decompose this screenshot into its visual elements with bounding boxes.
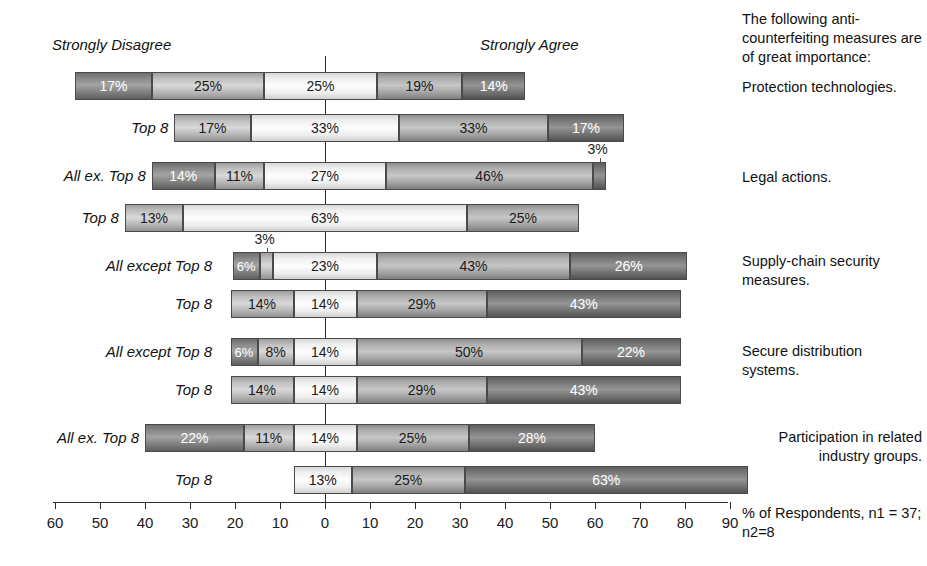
axis-tick [550,502,551,509]
bar-segment-value: 14% [248,296,276,312]
axis-tick-label: 40 [125,514,165,531]
bar-segment: 17% [75,72,152,100]
row-label: All ex. Top 8 [64,167,146,184]
bar-segment: 43% [487,376,681,404]
axis-tick-label: 10 [350,514,390,531]
category-label: Protection technologies. [742,78,922,97]
row-label: Top 8 [82,209,119,226]
axis-tick [100,502,101,509]
bar-segment: 14% [294,290,357,318]
bar-segment: 33% [399,114,548,142]
bar-segment: 13% [294,466,353,494]
bar-segment-value: 17% [572,120,600,136]
bar-segment-value: 43% [570,382,598,398]
axis-tick [730,502,731,509]
bar-segment-value: 14% [311,344,339,360]
row-label: Top 8 [175,381,212,398]
axis-tick-label: 50 [80,514,120,531]
bar-row: 17%33%33%17% [0,114,740,142]
bar-segment: 13% [125,204,184,232]
axis-tick [55,502,56,509]
bar-segment: 22% [582,338,681,366]
callout-leader-line [600,158,601,163]
zero-line-connector [325,280,326,290]
axis-tick-label: 30 [440,514,480,531]
bar-segment: 43% [377,252,571,280]
bar-segment-value: 8% [265,344,285,360]
axis-tick-label: 60 [575,514,615,531]
bar-segment: 26% [570,252,687,280]
bar-segment: 17% [174,114,251,142]
callout-leader-line [267,248,268,253]
bar-segment: 22% [145,424,244,452]
zero-line-connector [325,366,326,376]
bar-segment-value: 63% [311,210,339,226]
bar-segment-value: 25% [509,210,537,226]
chart-page: Strongly Disagree Strongly Agree 17%25%2… [0,0,927,566]
bar-segment: 25% [352,466,465,494]
bar-segment-value: 43% [459,258,487,274]
bar-segment: 14% [294,424,357,452]
zero-line-connector [325,142,326,162]
zero-line-connector [325,404,326,424]
axis-tick-label: 50 [530,514,570,531]
axis-tick-label: 20 [215,514,255,531]
axis-tick [190,502,191,509]
bar-segment-value: 14% [248,382,276,398]
bar-segment-value: 19% [405,78,433,94]
bar-segment: 23% [273,252,377,280]
zero-line-connector [325,100,326,114]
bar-segment-value: 6% [237,259,256,274]
bar-segment: 25% [467,204,580,232]
category-label: Supply-chain security measures. [742,252,922,290]
bar-segment: 14% [231,376,294,404]
axis-tick [460,502,461,509]
bar-segment-callout: 3% [588,141,608,157]
row-label: Top 8 [131,119,168,136]
bar-segment-value: 25% [306,78,334,94]
bar-segment-value: 14% [480,78,508,94]
bar-segment: 14% [462,72,525,100]
bar-segment-value: 22% [617,344,645,360]
right-label-column: The following anti-counterfeiting measur… [742,0,927,566]
bar-segment-value: 23% [311,258,339,274]
bar-segment-value: 26% [615,258,643,274]
bar-segment-value: 33% [459,120,487,136]
category-label: Secure distribution systems. [742,342,922,380]
axis-tick-label: 10 [260,514,300,531]
bar-segment-value: 25% [394,472,422,488]
axis-tick-label: 80 [665,514,705,531]
bar-segment-value: 22% [180,430,208,446]
bar-segment: 6% [233,252,260,280]
bar-segment: 25% [152,72,265,100]
bar-segment-value: 50% [455,344,483,360]
category-label: Participation in related industry groups… [742,428,922,466]
bar-segment: 43% [487,290,681,318]
zero-line-connector [325,232,326,252]
bar-segment-value: 43% [570,296,598,312]
axis-tick [685,502,686,509]
bar-segment: 14% [152,162,215,190]
bar-segment: 28% [469,424,595,452]
bar-segment-value: 13% [140,210,168,226]
bar-segment: 27% [264,162,386,190]
bar-row: 13%25%63% [0,466,740,494]
row-label: Top 8 [175,295,212,312]
bar-segment: 46% [386,162,593,190]
axis-tick-label: 40 [485,514,525,531]
bar-segment: 29% [357,290,488,318]
bar-segment-value: 46% [475,168,503,184]
bar-segment: 3% [593,162,607,190]
bar-segment: 19% [377,72,463,100]
legend-title: The following anti-counterfeiting measur… [742,10,924,67]
bar-segment: 50% [357,338,582,366]
bar-segment: 6% [231,338,258,366]
bar-segment-callout: 3% [255,231,275,247]
plot-area: Strongly Disagree Strongly Agree 17%25%2… [0,0,740,566]
axis-tick-label: 70 [620,514,660,531]
bar-segment-value: 29% [408,296,436,312]
bar-segment: 11% [244,424,294,452]
bar-segment: 14% [231,290,294,318]
bar-segment: 8% [258,338,294,366]
axis-tick [505,502,506,509]
